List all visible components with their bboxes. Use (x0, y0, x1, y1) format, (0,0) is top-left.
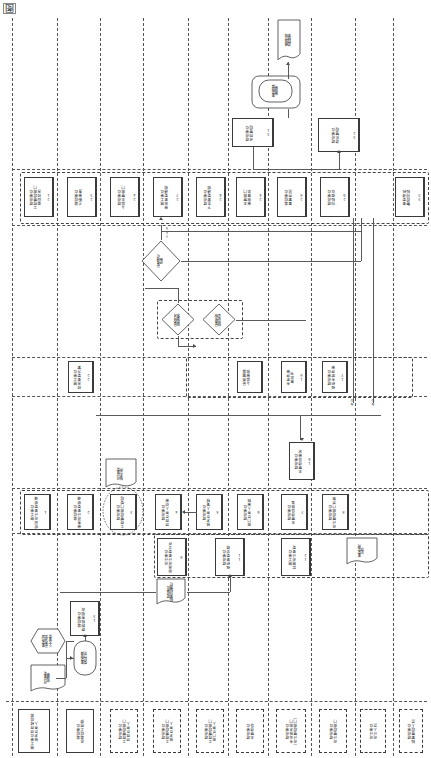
node-label: 建设单位 主管领导审定 (294, 449, 302, 473)
node-label: 建设单位 档案归档管理 (167, 583, 175, 601)
lane-separator (12, 18, 13, 756)
arrow-head (70, 656, 73, 660)
node-process[interactable]: 监理单位 跟踪检查验收 13 (70, 601, 100, 636)
node-process[interactable]: 建设单位 归档保存 29 (320, 177, 350, 217)
node-label: 建设单位 造价管理 (331, 127, 339, 143)
node-process[interactable]: 施工单位 实施设计变更 12 (281, 538, 311, 576)
node-index: 22 (85, 362, 93, 392)
node-label: 施工单位 实施设计变更 (288, 545, 296, 569)
node-index: 13 (91, 602, 99, 635)
arrow-head (337, 150, 341, 153)
node-index: 12 (302, 539, 310, 575)
node-label: 监理单位 重新审查 (74, 189, 82, 205)
node-process[interactable]: 建设单位 主管领导审定 19 (289, 442, 315, 480)
node-process[interactable]: 建设单位 工程管理部门受理 3 (110, 494, 137, 530)
node-process[interactable]: 监理单位 审查设计变更申请 2 (67, 494, 94, 530)
node-label: 建设单位 项目负责人初审 (161, 498, 169, 526)
node-process[interactable]: 建设单位 造价管理 32 (318, 118, 360, 152)
node-process[interactable]: 建设单位 下发变更通知 26 (196, 177, 226, 217)
node-index: 29 (341, 178, 349, 216)
connector (373, 218, 374, 403)
legend-label: 建设单位 档案管理人员 (407, 719, 415, 743)
node-decision-ellipse[interactable]: 是否通过 评审 (141, 240, 181, 282)
node-process[interactable]: 建设单位 组织专家评审 17 (322, 361, 348, 393)
node-document-shape: 设计变更 技术文件 (104, 457, 138, 490)
node-index: 2 (85, 495, 93, 529)
node-process[interactable]: 建设单位 上报主管部门 24 (110, 177, 140, 217)
node-process[interactable]: 建设单位 工程管理部门 退回修改 21 (24, 177, 54, 217)
connector (66, 641, 67, 678)
connector (288, 62, 289, 79)
node-process[interactable]: 监理单位 备案登记 28 (277, 177, 307, 217)
node-label: 变更结算 审批单 (272, 85, 280, 97)
node-index: 9 (178, 539, 186, 575)
node-process[interactable]: 施工单位 提出设计变更申请 1 (24, 494, 51, 530)
node-index: 25 (257, 178, 265, 216)
node-process[interactable]: 建设单位 组织变更交底 11 (215, 538, 245, 576)
node-diamond[interactable]: 是否影响 结构安全 (202, 303, 236, 336)
node-process[interactable]: 建设单位 主管领导批准 7 (281, 494, 308, 530)
node-process[interactable]: 施工单位 接收变更通知 27 (153, 177, 183, 217)
legend-label: 设计单位 设计人员 (369, 723, 377, 739)
legend-cell: 监理单位 总监理工程师 (66, 709, 94, 753)
node-index: 19 (306, 443, 314, 479)
node-process[interactable]: 建设单位 设计管理部门会签 8 (322, 494, 349, 530)
node-label: 建设单位 技术负责人复核 (202, 498, 210, 526)
legend-cell: 建设单位 专业技术部门 （设计管理部门） (276, 709, 306, 753)
node-label: 建设单位 组织专家评审 (327, 365, 335, 389)
node-label: 变更内容 是否涉及 重大变更 (42, 635, 53, 647)
legend-label: 施工单位项目经理部 技术负责人 (30, 713, 38, 749)
legend-label: 建设单位 专业技术部门 （设计管理部门） (285, 715, 297, 747)
connector (253, 147, 254, 169)
node-process[interactable]: 是否需要 上报审批 (237, 361, 263, 393)
node-label: 建设单位 上报主管部门 (117, 185, 125, 209)
arrow-head (300, 438, 304, 441)
node-label: 建设单位 设计管理部门会签 (328, 496, 336, 528)
node-document-shape: 建设单位 档案归档管理 (155, 577, 187, 606)
row-guide (12, 169, 427, 170)
node-rounded-receipt[interactable]: 变更申请 受理登记 (73, 640, 97, 676)
connector (300, 415, 301, 440)
connector (161, 231, 361, 232)
node-process[interactable]: 主管部门 审批意见 25 (236, 177, 266, 217)
flowchart-page: 图 审批完成 流程结束 变更费用 结算审核 变更 (0, 0, 431, 758)
node-process[interactable]: 专家评审 意见书 18 (281, 361, 307, 393)
node-process[interactable]: 建设单位 项目负责人初审 4 (155, 494, 182, 530)
legend-label: 监理单位 总监理工程师 (76, 719, 84, 743)
node-index: 24 (131, 178, 139, 216)
legend-label: 建设单位 主管领导 (246, 723, 254, 739)
node-label: 施工单位 修改变更方案 (73, 365, 81, 389)
node-label: 建设单位 归档保存 (327, 189, 335, 205)
node-index: 4 (173, 495, 181, 529)
connector (178, 288, 179, 303)
legend-cell: 建设单位 工程管理部门 部门负责人 (196, 709, 224, 753)
node-label: 建设单位 组织变更交底 (222, 545, 230, 569)
node-capsule-shape: 变更结算 审批单 (258, 79, 293, 103)
node-process[interactable]: 设计单位 出具设计变更文件 9 (157, 538, 187, 576)
node-process[interactable]: 建设单位 部门负责人审核 6 (237, 494, 264, 530)
node-process[interactable]: 施工单位 修改变更方案 22 (68, 361, 94, 393)
legend-cell: 建设单位 主管领导 (236, 709, 264, 753)
node-index: 28 (298, 178, 306, 216)
node-index: 32 (351, 119, 359, 151)
node-process[interactable]: 监理单位 重新审查 23 (67, 177, 97, 217)
arrow-head (228, 574, 232, 577)
node-index: 8 (340, 495, 348, 529)
connector (60, 592, 156, 593)
node-index: 3 (128, 495, 136, 529)
node-index: 27 (174, 178, 182, 216)
node-diamond[interactable]: 是否符合 规范要求 (161, 303, 195, 336)
node-index: 26 (217, 178, 225, 216)
node-process[interactable]: 变更资料 整理归档 33 (395, 177, 425, 217)
node-index: 7 (299, 495, 307, 529)
connector (230, 576, 231, 592)
node-process[interactable]: 建设单位 合同管理 31 (232, 118, 274, 147)
node-label: 建设单位 部门负责人审核 (243, 498, 251, 526)
node-label: 监理单位 备案登记 (284, 189, 292, 205)
node-label: 审批完成 流程结束 (285, 34, 293, 46)
connector (66, 641, 74, 642)
node-hexagon[interactable]: 变更内容 是否涉及 重大变更 (30, 628, 66, 654)
node-label: 设计单位 出具设计变更文件 (164, 541, 172, 573)
node-process[interactable]: 建设单位 技术负责人复核 5 (196, 494, 223, 530)
connector (178, 336, 179, 346)
